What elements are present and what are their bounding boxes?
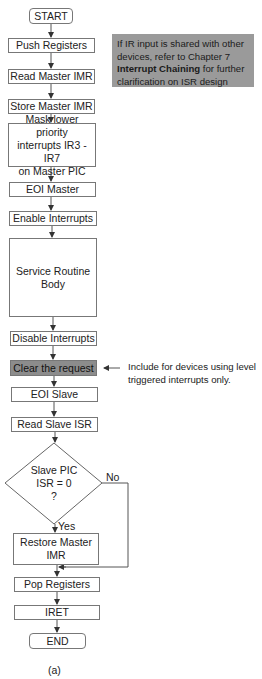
yes-label: Yes	[58, 520, 75, 532]
eoi-master-step: EOI Master	[9, 182, 96, 197]
note-line-3-rest: for further	[200, 63, 244, 74]
side-note-line-2: triggered interrupts only.	[128, 374, 256, 387]
restore-master-imr-step: Restore Master IMR	[13, 533, 99, 565]
note-line-4: clarification on ISR design	[117, 76, 249, 89]
eoi-slave-step: EOI Slave	[11, 387, 98, 402]
push-registers-step: Push Registers	[8, 38, 95, 53]
slave-pic-decision: Slave PIC ISR = 0 ?	[19, 464, 89, 503]
service-routine-body-step: Service Routine Body	[9, 238, 97, 317]
start-terminal: START	[29, 8, 73, 24]
mask-lower-priority-step: Mask lower priority interrupts IR3 - IR7…	[8, 123, 96, 167]
no-label: No	[106, 471, 119, 483]
level-triggered-note: Include for devices using level triggere…	[128, 361, 256, 386]
end-terminal: END	[29, 633, 86, 649]
pop-registers-label: Pop Registers	[24, 578, 90, 591]
start-label: START	[34, 10, 67, 23]
store-master-imr-label: Store Master IMR	[10, 100, 92, 113]
note-line-2: devices, refer to Chapter 7	[117, 51, 249, 64]
clear-request-step: Clear the request	[10, 360, 97, 376]
pop-registers-step: Pop Registers	[14, 577, 100, 592]
push-registers-label: Push Registers	[16, 39, 87, 52]
figure-caption: (a)	[48, 664, 61, 676]
read-master-imr-label: Read Master IMR	[10, 70, 92, 83]
side-note-line-1: Include for devices using level	[128, 361, 256, 374]
enable-interrupts-step: Enable Interrupts	[9, 211, 97, 226]
read-slave-isr-step: Read Slave ISR	[11, 417, 98, 432]
interrupt-chaining-note: If IR input is shared with other devices…	[112, 34, 254, 87]
service-routine-body-label: Service Routine Body	[16, 265, 90, 291]
clear-request-label: Clear the request	[13, 362, 94, 375]
read-slave-isr-label: Read Slave ISR	[17, 418, 92, 431]
end-label: END	[46, 635, 68, 648]
iret-step: IRET	[14, 605, 100, 620]
read-master-imr-step: Read Master IMR	[8, 69, 95, 84]
note-line-1: If IR input is shared with other	[117, 38, 249, 51]
note-bold-text: Interrupt Chaining	[117, 63, 200, 74]
disable-interrupts-label: Disable Interrupts	[12, 332, 94, 345]
eoi-slave-label: EOI Slave	[31, 388, 78, 401]
iret-label: IRET	[45, 606, 69, 619]
enable-interrupts-label: Enable Interrupts	[13, 212, 93, 225]
disable-interrupts-step: Disable Interrupts	[10, 331, 97, 346]
note-line-3: Interrupt Chaining for further	[117, 63, 249, 76]
mask-lower-priority-label: Mask lower priority interrupts IR3 - IR7…	[9, 113, 95, 178]
eoi-master-label: EOI Master	[26, 183, 79, 196]
restore-master-imr-label: Restore Master IMR	[20, 536, 92, 562]
